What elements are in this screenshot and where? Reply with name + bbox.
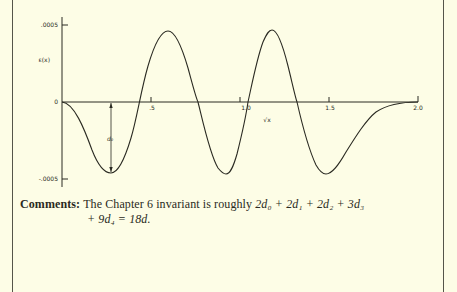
y-tick-top: .0005 — [41, 21, 58, 28]
x-tick-1-0: 1.0 — [241, 104, 251, 111]
comments-math-2: + 9d₄ = 18d. — [20, 212, 440, 227]
x-axis-label: √x — [263, 116, 271, 123]
x-tick-0-5: .5 — [149, 104, 155, 111]
x-tick-1-5: 1.5 — [325, 104, 335, 111]
x-tick-2-0: 2.0 — [413, 104, 423, 111]
comments-math-1: 2d₀ + 2d₁ + 2d₂ + 3d₃ — [255, 197, 364, 211]
d0-label: d₀ — [107, 135, 114, 142]
comments-block: Comments: The Chapter 6 invariant is rou… — [20, 197, 440, 227]
y-tick-bottom: -.0005 — [39, 175, 59, 182]
comments-text: The Chapter 6 invariant is roughly — [83, 197, 252, 211]
y-tick-zero: 0 — [54, 98, 58, 105]
comments-label: Comments: — [20, 197, 80, 211]
epsilon-chart: .0005 0 -.0005 ε(x) .5 1.0 1.5 2.0 √x d₀ — [0, 0, 457, 195]
y-axis-label: ε(x) — [39, 56, 50, 63]
